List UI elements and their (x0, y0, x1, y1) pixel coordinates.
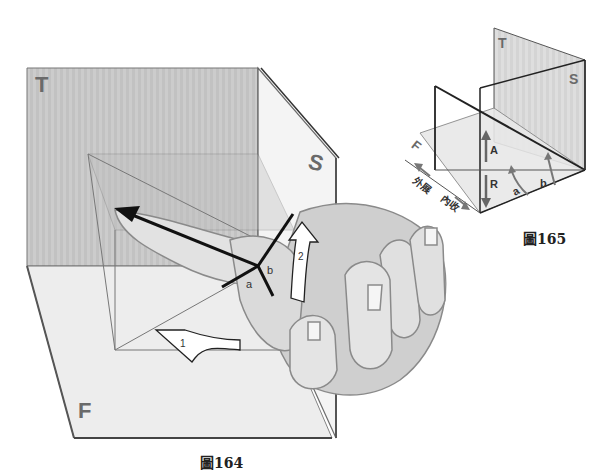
label-adduction: 內收 (439, 192, 462, 214)
figure-165: A R a b 外展 內收 T S F (405, 28, 585, 214)
plane-label-s-165: S (569, 71, 578, 87)
label-A: A (490, 144, 498, 156)
caption-fig165: 圖165 (523, 228, 566, 248)
figure-164: a b 2 1 T S F (27, 68, 446, 438)
plane-label-f-165: F (409, 137, 425, 154)
label-R: R (490, 178, 498, 190)
plane-label-f: F (78, 398, 91, 423)
label-a: a (246, 278, 253, 290)
plane-label-t: T (35, 72, 49, 97)
label-b: b (267, 264, 273, 276)
caption-fig164: 圖164 (200, 452, 243, 472)
svg-text:2: 2 (298, 251, 304, 262)
svg-text:1: 1 (180, 338, 186, 349)
label-abduction: 外展 (410, 174, 434, 196)
label-b-165: b (540, 177, 547, 189)
plane-label-t-165: T (498, 35, 507, 51)
